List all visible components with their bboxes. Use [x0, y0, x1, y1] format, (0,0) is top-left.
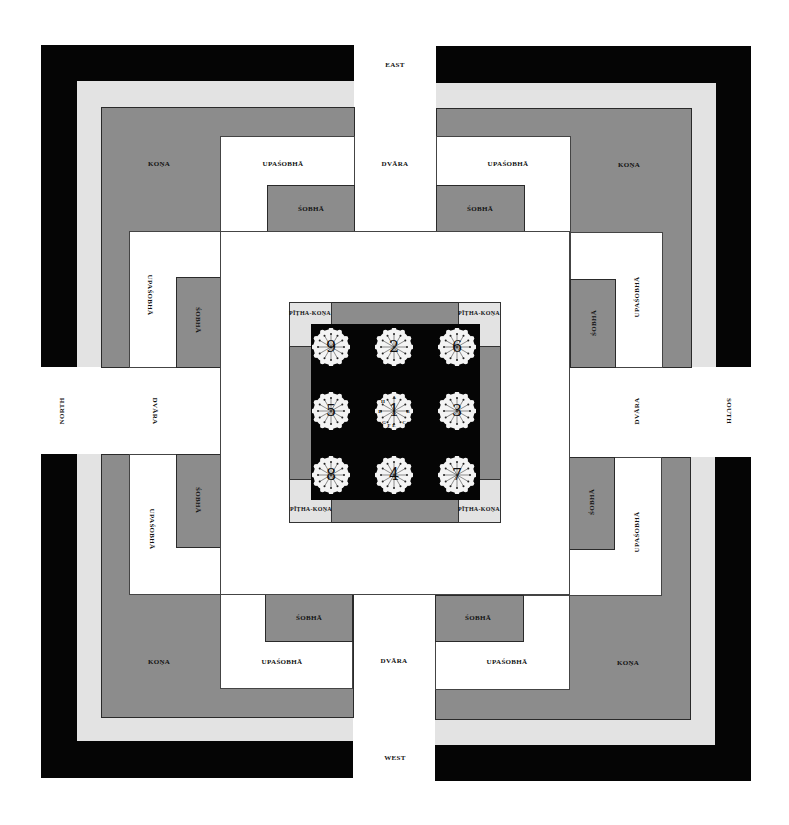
gate-north: DVĀRA — [151, 398, 159, 425]
se-upasobha-right-label: UPAŚOBHĀ — [633, 512, 641, 553]
center-letter-a: A — [392, 395, 396, 400]
ne-upasobha-top-label: UPAŚOBHĀ — [488, 160, 529, 168]
gate-west: DVĀRA — [381, 657, 408, 665]
center-letter-d: D — [378, 409, 382, 414]
ne-sobha-top-label: ŚOBHĀ — [467, 205, 493, 213]
lotus-number: 3 — [438, 392, 476, 430]
pitha-kona-label-nw: PĪṬHA-KOṆA — [289, 310, 331, 316]
lotus-number: 6 — [438, 328, 476, 366]
nw-sobha-left-label: ŚOBHĀ — [194, 307, 202, 333]
ne-sobha-right-label: ŚOBHĀ — [590, 310, 598, 336]
nw-upasobha-left-label: UPAŚOBHĀ — [146, 275, 154, 316]
sw-upasobha-left-label: UPAŚOBHĀ — [148, 509, 156, 550]
lotus-8: 8 — [312, 456, 350, 494]
lotus-4: 4 — [375, 456, 413, 494]
lotus-5: 5 — [312, 392, 350, 430]
lotus-number: 8 — [312, 456, 350, 494]
lotus-3: 3 — [438, 392, 476, 430]
lotus-9: 9 — [312, 328, 350, 366]
lotus-6: 6 — [438, 328, 476, 366]
nw-sobha-top-label: ŚOBHĀ — [298, 205, 324, 213]
ne-kona-label: KOṆA — [618, 161, 640, 169]
lotus-number: 2 — [375, 328, 413, 366]
direction-north: NORTH — [58, 398, 66, 425]
center-letter-c: C — [402, 420, 406, 425]
direction-east: EAST — [385, 61, 405, 69]
pitha-kona-label-ne: PĪṬHA-KOṆA — [458, 310, 500, 316]
se-sobha-bottom-label: ŚOBHĀ — [465, 614, 491, 622]
lotus-number: 4 — [375, 456, 413, 494]
nw-upasobha-top-label: UPAŚOBHĀ — [263, 160, 304, 168]
direction-west: WEST — [384, 754, 405, 762]
lotus-2: 2 — [375, 328, 413, 366]
center-letter-f: F — [387, 423, 390, 428]
nw-kona-label: KOṆA — [148, 160, 170, 168]
ne-upasobha-right-label: UPAŚOBHĀ — [633, 277, 641, 318]
gate-east: DVĀRA — [382, 160, 409, 168]
center-letter-g: G — [382, 420, 386, 425]
direction-south: SOUTH — [725, 398, 733, 424]
sw-kona-label: KOṆA — [148, 658, 170, 666]
lotus-1-center: 1 A B C D E F G H — [375, 392, 413, 430]
sw-sobha-bottom-label: ŚOBHĀ — [296, 614, 322, 622]
sw-upasobha-bottom-label: UPAŚOBHĀ — [262, 658, 303, 666]
lotus-number: 5 — [312, 392, 350, 430]
pitha-kona-label-sw: PĪṬHA-KOṆA — [290, 506, 332, 512]
gate-south: DVĀRA — [633, 398, 641, 425]
se-kona-label: KOṆA — [617, 659, 639, 667]
sw-sobha-left-label: ŚOBHĀ — [194, 487, 202, 513]
lotus-number: 7 — [438, 456, 476, 494]
lotus-number: 9 — [312, 328, 350, 366]
center-letter-b: B — [406, 409, 409, 414]
center-letter-e: E — [392, 423, 395, 428]
se-upasobha-bottom-label: UPAŚOBHĀ — [487, 658, 528, 666]
pitha-kona-label-se: PĪṬHA-KOṆA — [458, 506, 500, 512]
lotus-7: 7 — [438, 456, 476, 494]
center-letter-h: H — [381, 399, 385, 404]
se-sobha-right-label: ŚOBHĀ — [588, 489, 596, 515]
